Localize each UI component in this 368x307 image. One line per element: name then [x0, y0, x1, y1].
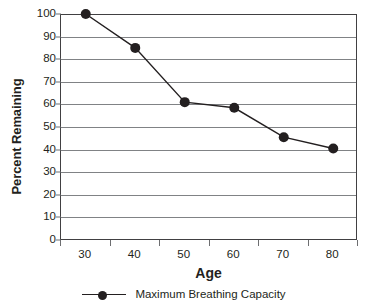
y-tick-label-90: 90: [24, 31, 56, 43]
x-tick-mark-6: [357, 240, 358, 246]
y-tick-mark-90: [56, 36, 61, 37]
data-point-age-40: [130, 43, 140, 53]
y-tick-label-30: 30: [24, 166, 56, 178]
y-axis-tick-labels: 1009080706050403020100: [24, 0, 56, 307]
y-tick-mark-20: [56, 194, 61, 195]
x-tick-label-70: 70: [263, 248, 303, 261]
y-tick-mark-60: [56, 104, 61, 105]
y-tick-label-50: 50: [24, 121, 56, 133]
y-tick-label-100: 100: [24, 8, 56, 20]
y-tick-mark-100: [56, 14, 61, 15]
legend-label: Maximum Breathing Capacity: [135, 288, 285, 301]
x-tick-label-80: 80: [312, 248, 352, 261]
y-tick-mark-40: [56, 149, 61, 150]
y-tick-mark-50: [56, 127, 61, 128]
x-tick-label-60: 60: [213, 248, 253, 261]
x-tick-mark-1: [110, 240, 111, 246]
plot-area: [60, 14, 357, 240]
y-tick-mark-10: [56, 217, 61, 218]
x-tick-mark-0: [60, 240, 61, 246]
chart-legend: Maximum Breathing Capacity: [0, 288, 368, 301]
data-point-age-30: [81, 9, 91, 19]
legend-dot-icon: [98, 291, 107, 300]
line-with-dot-marker: [82, 289, 126, 301]
data-point-age-80: [328, 143, 338, 153]
data-series-maximum-breathing-capacity: [61, 14, 358, 240]
y-tick-label-0: 0: [24, 234, 56, 246]
data-point-age-60: [229, 103, 239, 113]
x-tick-label-40: 40: [114, 248, 154, 261]
x-tick-label-50: 50: [164, 248, 204, 261]
y-tick-label-20: 20: [24, 189, 56, 201]
y-tick-label-10: 10: [24, 212, 56, 224]
x-tick-mark-5: [308, 240, 309, 246]
y-tick-label-80: 80: [24, 53, 56, 65]
data-point-age-50: [180, 97, 190, 107]
y-tick-mark-80: [56, 59, 61, 60]
series-line-0: [86, 14, 334, 148]
data-point-age-70: [279, 132, 289, 142]
x-tick-mark-2: [159, 240, 160, 246]
y-tick-mark-70: [56, 81, 61, 82]
x-axis-title: Age: [60, 265, 357, 281]
legend-entry-0[interactable]: Maximum Breathing Capacity: [82, 288, 285, 301]
x-tick-mark-3: [209, 240, 210, 246]
y-axis-title: Percent Remaining: [9, 37, 24, 237]
y-tick-label-40: 40: [24, 144, 56, 156]
y-tick-mark-30: [56, 172, 61, 173]
x-tick-label-30: 30: [65, 248, 105, 261]
y-tick-label-60: 60: [24, 99, 56, 111]
x-tick-mark-4: [258, 240, 259, 246]
y-tick-label-70: 70: [24, 76, 56, 88]
breathing-capacity-line-chart: Percent Remaining 1009080706050403020100…: [0, 0, 368, 307]
